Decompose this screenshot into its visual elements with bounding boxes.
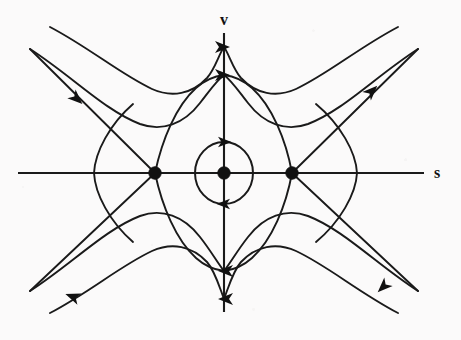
phase-portrait-canvas: v s (0, 0, 461, 340)
phase-portrait-figure: v s (0, 0, 461, 340)
saddle-unstable-right-branch (292, 49, 418, 173)
fixed-point-saddle-right (286, 167, 298, 179)
saddle-stable-left-branch (30, 173, 155, 291)
v-axis-label: v (220, 11, 228, 28)
fixed-point-saddle-left (149, 167, 161, 179)
s-axis-label: s (434, 164, 440, 181)
arrow-lower-right-incoming-icon (374, 277, 393, 296)
saddle-unstable-left-branch (30, 49, 155, 173)
arrow-upper-left-incoming-icon (67, 89, 86, 108)
fixed-point-center (218, 167, 230, 179)
saddle-stable-right-branch (292, 173, 418, 291)
arrow-upper-right-outgoing-icon (362, 82, 381, 101)
